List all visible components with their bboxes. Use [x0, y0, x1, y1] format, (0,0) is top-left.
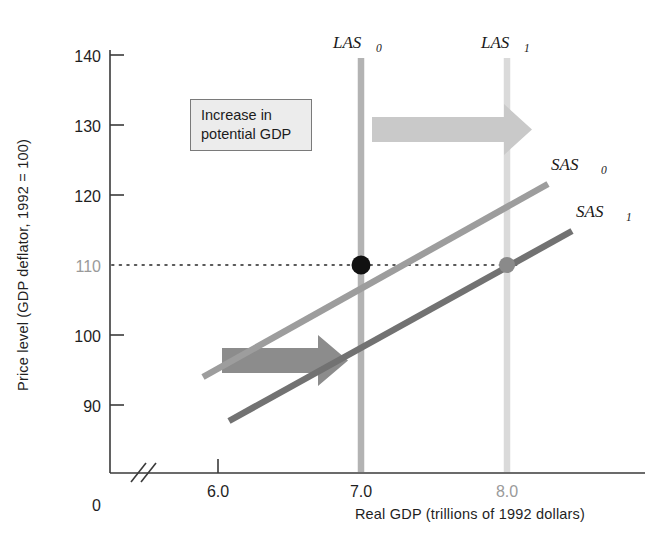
sas1-label: SAS 1 — [576, 202, 632, 223]
y-axis-origin-label: 0 — [92, 497, 101, 514]
figure-canvas: 140 130 120 110 100 90 0 6.0 7.0 8.0 Rea… — [0, 0, 653, 539]
y-tick-label-130: 130 — [74, 118, 101, 135]
sas1-line — [229, 231, 572, 421]
equilibrium-point-1 — [499, 257, 515, 273]
y-tick-label-140: 140 — [74, 48, 101, 65]
y-tick-marks — [110, 55, 124, 405]
x-tick-label-60: 6.0 — [207, 483, 229, 500]
y-tick-label-100: 100 — [74, 328, 101, 345]
las0-label-subscript: 0 — [376, 42, 382, 54]
las1-label-text: LAS — [480, 33, 510, 52]
y-tick-labels: 140 130 120 110 100 90 0 — [74, 48, 101, 514]
sas-shift-arrow — [222, 335, 348, 386]
sas0-label: SAS 0 — [551, 155, 607, 176]
sas0-label-subscript: 0 — [601, 164, 607, 176]
sas1-label-subscript: 1 — [626, 211, 632, 223]
supply-shift-chart: 140 130 120 110 100 90 0 6.0 7.0 8.0 Rea… — [0, 0, 653, 539]
increase-in-potential-gdp-callout: Increase in potential GDP — [190, 99, 312, 151]
x-tick-label-80: 8.0 — [496, 483, 518, 500]
x-axis-title: Real GDP (trillions of 1992 dollars) — [355, 506, 585, 522]
las-shift-arrow — [372, 104, 532, 155]
las1-label-subscript: 1 — [524, 42, 530, 54]
x-tick-label-70: 7.0 — [350, 483, 372, 500]
las1-label: LAS 1 — [480, 33, 530, 54]
y-axis-title: Price level (GDP deflator, 1992 = 100) — [15, 139, 31, 391]
sas0-label-text: SAS — [551, 155, 579, 174]
y-tick-label-90: 90 — [83, 398, 101, 415]
x-tick-labels: 6.0 7.0 8.0 — [207, 483, 518, 500]
y-tick-label-110: 110 — [75, 258, 101, 275]
las0-label-text: LAS — [332, 33, 362, 52]
sas1-label-text: SAS — [576, 202, 604, 221]
sas0-line — [203, 184, 548, 377]
las0-label: LAS 0 — [332, 33, 382, 54]
equilibrium-point-0 — [352, 256, 371, 275]
y-tick-label-120: 120 — [74, 188, 101, 205]
